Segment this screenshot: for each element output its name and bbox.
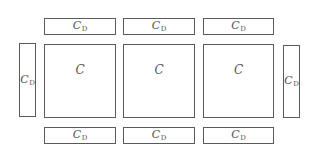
bottom-cd-box-3: CD xyxy=(203,127,274,144)
c-label: C xyxy=(234,64,243,76)
cd-label: CD xyxy=(20,74,35,87)
bottom-cd-box-1: CD xyxy=(44,127,116,144)
cd-label: CD xyxy=(284,75,299,88)
right-cd-box: CD xyxy=(283,45,300,118)
cd-label: CD xyxy=(73,20,88,33)
c-label: C xyxy=(75,64,84,76)
left-cd-box: CD xyxy=(19,43,36,117)
cd-label: CD xyxy=(73,129,88,142)
top-cd-box-3: CD xyxy=(203,18,274,35)
cd-label: CD xyxy=(231,129,246,142)
center-square-3: C xyxy=(203,44,274,118)
top-cd-box-2: CD xyxy=(123,18,195,35)
top-cd-box-1: CD xyxy=(44,18,116,35)
cd-label: CD xyxy=(152,20,167,33)
center-square-2: C xyxy=(123,44,195,118)
cd-label: CD xyxy=(152,129,167,142)
bottom-cd-box-2: CD xyxy=(123,127,195,144)
center-square-1: C xyxy=(44,44,116,118)
c-label: C xyxy=(154,64,163,76)
cd-label: CD xyxy=(231,20,246,33)
